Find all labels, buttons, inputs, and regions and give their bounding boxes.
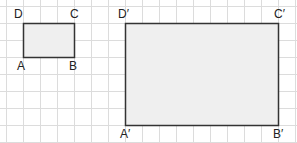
vertex-label-b: B (69, 59, 77, 73)
vertex-label-d: D (14, 7, 23, 21)
vertex-label-b-prime: B′ (273, 127, 284, 141)
vertex-label-d-prime: D′ (118, 7, 130, 21)
grid-diagram: D C A B D′ C′ A′ B′ (0, 0, 297, 143)
large-rectangle-abcd-prime (126, 24, 279, 126)
vertex-label-c: C (70, 7, 79, 21)
vertex-label-a-prime: A′ (120, 127, 131, 141)
vertex-label-a: A (17, 59, 25, 73)
vertex-label-c-prime: C′ (274, 7, 286, 21)
small-rectangle-abcd (24, 24, 75, 58)
